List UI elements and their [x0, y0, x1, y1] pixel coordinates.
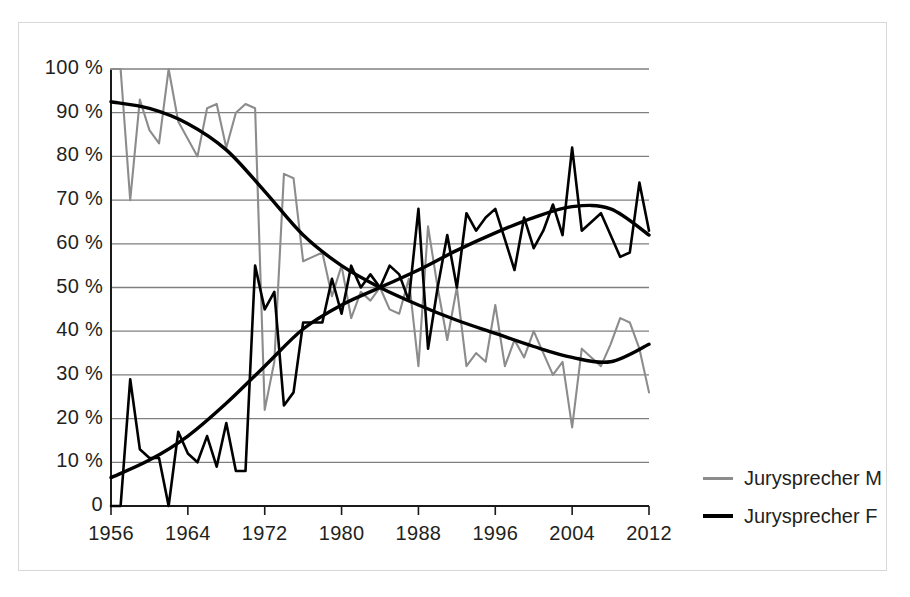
y-tick-label: 0 — [25, 493, 103, 516]
trendline-m — [111, 102, 649, 363]
legend-item-jurysprecher-f: Jurysprecher F — [703, 497, 910, 535]
y-tick-label: 40 % — [25, 318, 103, 341]
x-tick-label: 1972 — [225, 522, 305, 545]
legend-label-m: Jurysprecher M — [744, 467, 882, 490]
legend-item-jurysprecher-m: Jurysprecher M — [703, 459, 910, 497]
y-tick-label: 60 % — [25, 231, 103, 254]
y-tick-label: 10 % — [25, 449, 103, 472]
trendline-f — [111, 205, 649, 477]
chart-page: 010 %20 %30 %40 %50 %60 %70 %80 %90 %100… — [0, 0, 910, 597]
x-tick-label: 1996 — [455, 522, 535, 545]
y-tick-label: 90 % — [25, 100, 103, 123]
legend-label-f: Jurysprecher F — [744, 505, 877, 528]
x-tick-label: 1956 — [71, 522, 151, 545]
x-tick-label: 1964 — [148, 522, 228, 545]
y-tick-label: 100 % — [25, 56, 103, 79]
chart-frame: 010 %20 %30 %40 %50 %60 %70 %80 %90 %100… — [18, 22, 887, 571]
chart-legend: Jurysprecher M Jurysprecher F — [703, 459, 910, 535]
series-line-f — [111, 148, 649, 506]
y-tick-label: 30 % — [25, 362, 103, 385]
x-tick-label: 2012 — [609, 522, 689, 545]
legend-swatch-m-icon — [703, 477, 733, 480]
y-tick-label: 70 % — [25, 187, 103, 210]
y-tick-label: 50 % — [25, 275, 103, 298]
x-axis-ticks — [111, 506, 649, 515]
series-line-m — [111, 69, 649, 427]
x-tick-label: 1980 — [302, 522, 382, 545]
x-tick-label: 2004 — [532, 522, 612, 545]
x-tick-label: 1988 — [378, 522, 458, 545]
legend-swatch-f-icon — [703, 514, 733, 518]
y-tick-label: 80 % — [25, 143, 103, 166]
y-tick-label: 20 % — [25, 406, 103, 429]
